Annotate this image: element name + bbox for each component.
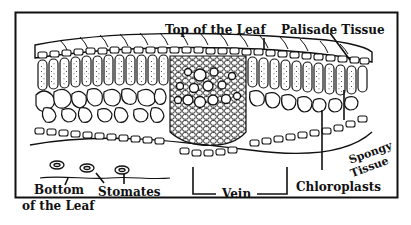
vein-bundle: [170, 56, 246, 146]
label-top-of-leaf: Top of the Leaf: [165, 23, 266, 37]
label-bottom-line2: of the Leaf: [22, 199, 95, 213]
label-vein: Vein: [221, 187, 251, 201]
leaf-cross-section-diagram: Top of the Leaf Palisade Tissue Spongy T…: [0, 0, 411, 225]
label-bottom-line1: Bottom: [34, 183, 84, 197]
label-palisade-tissue: Palisade Tissue: [281, 23, 385, 37]
label-stomates: Stomates: [98, 185, 161, 199]
label-chloroplasts: Chloroplasts: [296, 180, 381, 194]
